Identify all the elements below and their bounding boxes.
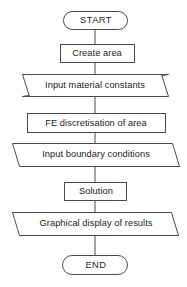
graphical-display-label: Graphical display of results: [39, 218, 152, 228]
input-material-constants-label: Input material constants: [45, 80, 145, 90]
node-solution[interactable]: Solution: [65, 183, 127, 201]
start-label: START: [80, 15, 112, 25]
node-fe-discretisation[interactable]: FE discretisation of area: [28, 114, 166, 133]
fe-discretisation-label: FE discretisation of area: [45, 118, 147, 128]
create-area-label: Create area: [72, 48, 122, 58]
node-input-material-constants[interactable]: Input material constants: [23, 75, 169, 97]
node-input-boundary-conditions[interactable]: Input boundary conditions: [13, 144, 180, 167]
node-start[interactable]: START: [64, 12, 128, 30]
solution-label: Solution: [79, 186, 113, 196]
node-graphical-display[interactable]: Graphical display of results: [13, 213, 179, 236]
flowchart-canvas: START Create area Input material constan…: [0, 0, 187, 287]
end-label: END: [85, 260, 106, 270]
input-boundary-conditions-label: Input boundary conditions: [42, 149, 150, 159]
node-end[interactable]: END: [63, 256, 128, 275]
node-create-area[interactable]: Create area: [61, 45, 135, 63]
